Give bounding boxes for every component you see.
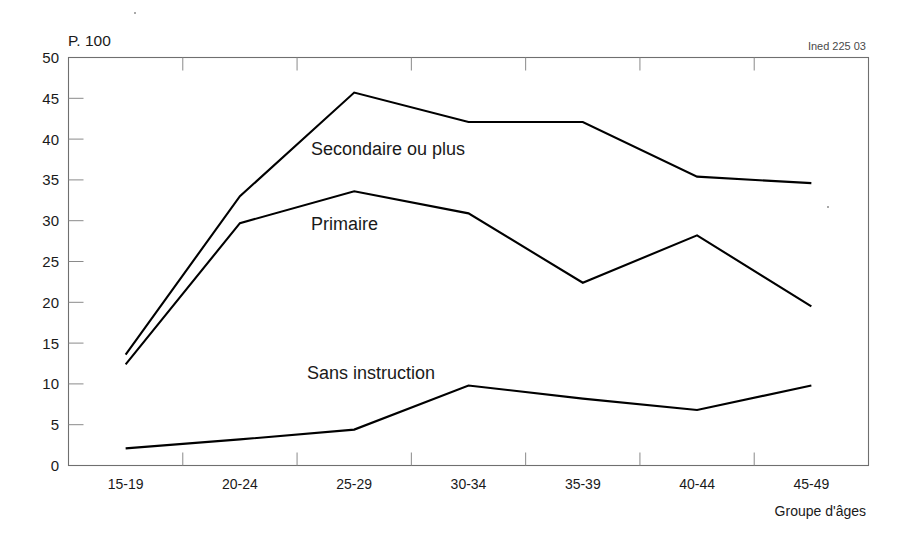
- y-tick-label: 45: [42, 90, 59, 107]
- y-tick-label: 40: [42, 131, 59, 148]
- plot-frame: [69, 58, 869, 466]
- y-tick-label: 15: [42, 335, 59, 352]
- series-label: Sans instruction: [307, 363, 435, 383]
- y-tick-label: 10: [42, 375, 59, 392]
- series-label: Secondaire ou plus: [311, 139, 465, 159]
- x-tick-label: 15-19: [108, 476, 144, 492]
- series-annotations: Secondaire ou plusPrimaireSans instructi…: [307, 139, 465, 383]
- y-axis: 05101520253035404550: [42, 49, 83, 474]
- speck-right: [827, 206, 829, 208]
- speck-top: [134, 12, 136, 14]
- x-tick-label: 30-34: [451, 476, 487, 492]
- line-chart: 05101520253035404550 15-1920-2425-2930-3…: [0, 0, 897, 536]
- y-tick-label: 30: [42, 212, 59, 229]
- y-tick-label: 50: [42, 49, 59, 66]
- x-tick-label: 35-39: [565, 476, 601, 492]
- series-label: Primaire: [311, 214, 378, 234]
- x-axis-caption: Groupe d'âges: [775, 503, 866, 519]
- y-tick-label: 5: [51, 416, 59, 433]
- series-lines: [126, 93, 812, 449]
- series-line: [126, 191, 812, 364]
- x-tick-label: 25-29: [336, 476, 372, 492]
- series-line: [126, 93, 812, 355]
- y-tick-label: 25: [42, 253, 59, 270]
- y-tick-label: 35: [42, 171, 59, 188]
- y-tick-label: 20: [42, 294, 59, 311]
- series-line: [126, 386, 812, 449]
- chart-figure: 05101520253035404550 15-1920-2425-2930-3…: [0, 0, 897, 536]
- y-axis-note: P. 100: [68, 32, 111, 49]
- credit-label: Ined 225 03: [808, 40, 866, 52]
- x-tick-label: 20-24: [222, 476, 258, 492]
- y-tick-label: 0: [51, 457, 59, 474]
- x-tick-label: 40-44: [679, 476, 715, 492]
- x-tick-label: 45-49: [793, 476, 829, 492]
